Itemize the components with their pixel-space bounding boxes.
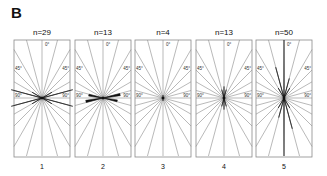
panel-index-label: 5	[282, 163, 286, 170]
angle-label-right-90: 90°	[62, 93, 69, 98]
n-label: n=13	[215, 28, 234, 37]
panel-index-label: 3	[161, 163, 165, 170]
angle-label-right-90: 90°	[123, 93, 130, 98]
angle-label-right-90: 90°	[183, 93, 190, 98]
angle-label-left-90: 90°	[76, 93, 83, 98]
angle-label-0: 0°	[287, 42, 292, 47]
panel-index-label: 2	[101, 163, 105, 170]
n-label: n=29	[33, 28, 52, 37]
angle-label-left-90: 90°	[257, 93, 264, 98]
rose-panel-5: 0°45°45°90°90°n=505	[256, 28, 312, 170]
angle-label-left-90: 90°	[15, 93, 22, 98]
angle-label-left-45: 45°	[76, 66, 83, 71]
rose-panel-4: 0°45°45°90°90°n=134	[196, 28, 252, 170]
panel-index-label: 1	[40, 163, 44, 170]
rose-panel-1: 0°45°45°90°90°n=291	[11, 28, 73, 170]
n-label: n=13	[94, 28, 113, 37]
angle-label-right-45: 45°	[183, 66, 190, 71]
angle-label-0: 0°	[45, 42, 50, 47]
angle-label-right-45: 45°	[123, 66, 130, 71]
n-label: n=50	[275, 28, 294, 37]
n-label: n=4	[156, 28, 170, 37]
angle-label-left-45: 45°	[197, 66, 204, 71]
rose-panel-3: 0°45°45°90°90°n=43	[135, 28, 191, 170]
angle-label-0: 0°	[106, 42, 111, 47]
angle-label-right-45: 45°	[244, 66, 251, 71]
angle-label-left-90: 90°	[197, 93, 204, 98]
angle-label-left-45: 45°	[15, 66, 22, 71]
panel-index-label: 4	[222, 163, 226, 170]
angle-label-right-45: 45°	[304, 66, 311, 71]
angle-label-right-90: 90°	[304, 93, 311, 98]
rose-panel-2: 0°45°45°90°90°n=132	[75, 28, 131, 170]
rose-diagram-figure: 0°45°45°90°90°n=2910°45°45°90°90°n=1320°…	[0, 0, 327, 176]
angle-label-left-90: 90°	[136, 93, 143, 98]
angle-label-0: 0°	[166, 42, 171, 47]
angle-label-0: 0°	[227, 42, 232, 47]
angle-label-left-45: 45°	[257, 66, 264, 71]
angle-label-left-45: 45°	[136, 66, 143, 71]
angle-label-right-45: 45°	[62, 66, 69, 71]
angle-label-right-90: 90°	[244, 93, 251, 98]
